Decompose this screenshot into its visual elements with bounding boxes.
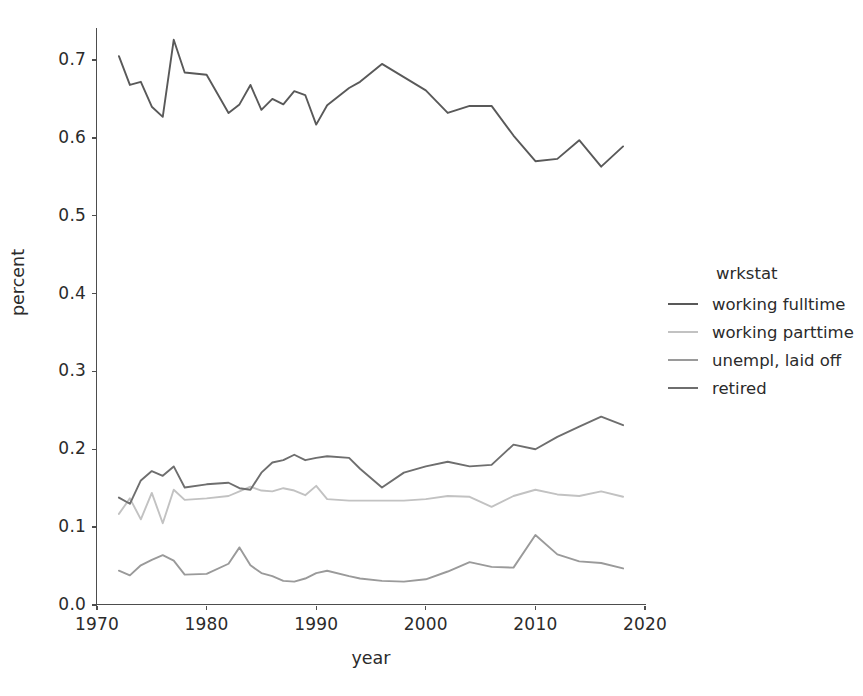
legend-title: wrkstat: [716, 264, 858, 283]
x-tick-mark: [644, 606, 645, 610]
legend-items: working fulltimeworking parttimeunempl, …: [668, 290, 858, 402]
legend-item[interactable]: working fulltime: [668, 290, 858, 318]
x-tick-mark: [206, 606, 207, 610]
x-tick-label: 1970: [52, 614, 142, 634]
x-tick-mark: [96, 606, 97, 610]
y-tick-mark: [92, 59, 96, 60]
series-line: [119, 40, 623, 167]
plot-area: [97, 28, 645, 605]
x-axis-label: year: [97, 648, 645, 668]
y-tick-label: 0.3: [40, 360, 86, 380]
legend: wrkstat working fulltimeworking parttime…: [668, 264, 858, 402]
legend-item-label: unempl, laid off: [712, 351, 841, 370]
y-tick-label: 0.4: [40, 283, 86, 303]
y-tick-mark: [92, 293, 96, 294]
y-tick-mark: [92, 449, 96, 450]
y-tick-label: 0.7: [40, 49, 86, 69]
legend-swatch-icon: [668, 387, 698, 389]
y-tick-mark: [92, 137, 96, 138]
x-tick-mark: [535, 606, 536, 610]
legend-item-label: working fulltime: [712, 295, 845, 314]
legend-item[interactable]: retired: [668, 374, 858, 402]
series-line: [119, 417, 623, 504]
y-tick-label: 0.5: [40, 205, 86, 225]
x-tick-label: 1990: [271, 614, 361, 634]
x-tick-label: 2020: [600, 614, 690, 634]
legend-item[interactable]: working parttime: [668, 318, 858, 346]
series-line: [119, 486, 623, 523]
legend-swatch-icon: [668, 303, 698, 305]
x-tick-label: 2010: [490, 614, 580, 634]
x-tick-mark: [316, 606, 317, 610]
legend-item-label: retired: [712, 379, 767, 398]
y-tick-mark: [92, 215, 96, 216]
y-tick-label: 0.1: [40, 516, 86, 536]
y-axis-label: percent: [8, 249, 28, 316]
x-tick-label: 2000: [381, 614, 471, 634]
x-tick-mark: [425, 606, 426, 610]
legend-swatch-icon: [668, 359, 698, 361]
y-tick-mark: [92, 371, 96, 372]
legend-item-label: working parttime: [712, 323, 854, 342]
legend-swatch-icon: [668, 331, 698, 333]
line-series-svg: [97, 28, 645, 605]
y-tick-label: 0.0: [40, 594, 86, 614]
x-tick-label: 1980: [162, 614, 252, 634]
legend-item[interactable]: unempl, laid off: [668, 346, 858, 374]
series-line: [119, 535, 623, 582]
chart-figure: 0.00.10.20.30.40.50.60.7 197019801990200…: [0, 0, 863, 696]
y-tick-mark: [92, 526, 96, 527]
y-tick-label: 0.2: [40, 438, 86, 458]
y-tick-label: 0.6: [40, 127, 86, 147]
